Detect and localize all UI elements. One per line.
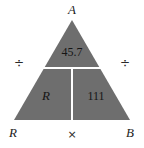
multiplication-icon-bottom: ×	[60, 129, 84, 140]
division-icon-left: ÷	[10, 57, 28, 69]
division-icon-right: ÷	[116, 57, 134, 69]
cell-value-top: 45.7	[48, 46, 96, 58]
cell-value-bottom-left: R	[30, 89, 62, 102]
triangle-figure-canvas: A R B ÷ ÷ × 45.7 R 111	[0, 0, 144, 148]
vertex-label-r: R	[4, 126, 22, 139]
cell-value-bottom-right: 111	[80, 90, 112, 102]
vertex-label-b: B	[121, 126, 139, 139]
vertex-label-a: A	[0, 3, 144, 16]
